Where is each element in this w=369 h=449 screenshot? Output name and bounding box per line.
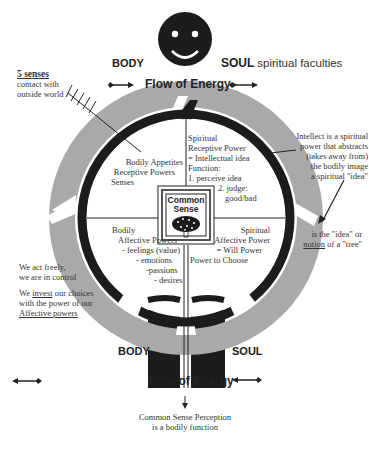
- qr-line: = Intellectual idea: [188, 153, 268, 163]
- ql-line: Receptive Powers: [113, 167, 175, 177]
- freedom-we: We: [19, 288, 32, 298]
- top-flow-of-energy: Flow of Energy: [145, 76, 231, 91]
- bl-line: - emotions: [136, 255, 192, 265]
- qr-line: good/bad: [225, 193, 268, 203]
- intellect-note: Intellect is a spiritual power that abst…: [268, 131, 368, 181]
- intellect-line: power that abstracts: [268, 141, 368, 151]
- top-soul-word: SOUL: [221, 56, 254, 70]
- idea-line-2-rest: of a "tree": [325, 239, 362, 249]
- idea-note: is the "idea" or notion of a "tree": [300, 229, 362, 249]
- quadrant-bodily-affective: Bodily Affective Powers - feelings (valu…: [112, 225, 192, 285]
- qr-line: 1. perceive idea: [188, 173, 268, 183]
- intellect-line: the bodily image: [268, 161, 368, 171]
- freedom-line-3: We invest our choices: [19, 288, 109, 298]
- bottom-flow-of-energy: Flow of Energy: [148, 373, 234, 388]
- quadrant-spiritual-affective: Spiritual Affective Power = Will Power P…: [190, 225, 270, 265]
- bl-line: - feelings (value): [122, 245, 192, 255]
- bl-line: Bodily: [112, 225, 192, 235]
- ql-line: Bodily Appetites: [113, 157, 183, 167]
- common-sense-note: Common Sense Perception is a bodily func…: [130, 412, 240, 432]
- freedom-choices: our choices: [53, 288, 94, 298]
- senses-title: 5 senses: [17, 69, 64, 79]
- down-arrow-icon: [182, 403, 188, 409]
- br-line: = Will Power: [190, 245, 262, 255]
- qr-line: Function:: [188, 163, 268, 173]
- senses-line-2: outside world: [17, 89, 64, 99]
- soul-faculties-text: spiritual faculties: [257, 57, 342, 69]
- freedom-line-4: with the power of our: [19, 298, 109, 308]
- common-sense-line-2: Sense: [166, 205, 206, 214]
- intellect-line: (takes away from): [268, 151, 368, 161]
- top-soul-label: SOUL spiritual faculties: [221, 56, 342, 71]
- senses-note: 5 senses contact with outside world: [17, 69, 64, 99]
- bl-line: - desires: [154, 275, 192, 285]
- br-line: Affective Power: [190, 235, 270, 245]
- freedom-line-1: We act freely,: [19, 262, 109, 272]
- quadrant-bodily-receptive: Bodily Appetites Receptive Powers Senses: [113, 157, 183, 187]
- freedom-invest: invest: [32, 288, 52, 298]
- qr-line: Spiritual: [188, 133, 268, 143]
- bl-line: -passions: [146, 265, 192, 275]
- common-sense-note-1: Common Sense Perception: [130, 412, 240, 422]
- common-sense-note-2: is a bodily function: [130, 422, 240, 432]
- freedom-line-2: we are in control: [19, 272, 109, 282]
- quadrant-spiritual-receptive: Spiritual Receptive Power = Intellectual…: [188, 133, 268, 203]
- freedom-note: We act freely, we are in control We inve…: [19, 262, 109, 318]
- br-line: Spiritual: [190, 225, 270, 235]
- bl-line: Affective Powers: [118, 235, 192, 245]
- qr-line: 2. judge:: [218, 183, 268, 193]
- bottom-body-label: BODY: [118, 345, 150, 357]
- qr-line: Receptive Power: [188, 143, 268, 153]
- idea-line-1: is the "idea" or: [300, 229, 362, 239]
- senses-line-1: contact with: [17, 79, 64, 89]
- intellect-line: Intellect is a spiritual: [268, 131, 368, 141]
- intellect-line: a spiritual "idea": [268, 171, 368, 181]
- freedom-line-5: Affective powers: [19, 308, 109, 318]
- notion-word: notion: [303, 239, 325, 249]
- idea-line-2: notion of a "tree": [300, 239, 362, 249]
- common-sense-label: Common Sense: [166, 196, 206, 214]
- ql-line: Senses: [111, 177, 183, 187]
- bottom-soul-label: SOUL: [232, 345, 263, 357]
- top-body-label: BODY: [112, 57, 144, 69]
- br-line: Power to Choose: [190, 255, 270, 265]
